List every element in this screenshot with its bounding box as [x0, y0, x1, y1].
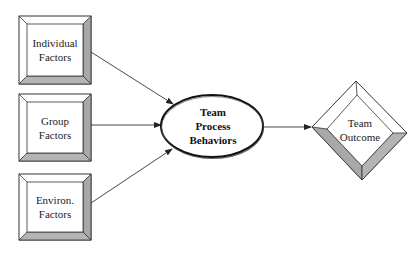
individual-factors-line1: Individual [32, 36, 77, 50]
group-factors-line2: Factors [39, 128, 71, 142]
team-outcome-label: Team Outcome [328, 112, 392, 148]
group-factors-label: Group Factors [27, 102, 83, 153]
environ-factors-line2: Factors [39, 207, 71, 221]
individual-factors-label: Individual Factors [27, 24, 83, 76]
team-process-line1: Team [200, 105, 226, 119]
team-process-line2: Process [195, 119, 230, 133]
arrow-environ-to-process [91, 149, 172, 203]
environ-factors-line1: Environ. [36, 193, 74, 207]
arrow-individual-to-process [91, 52, 173, 104]
diagram-canvas: Individual Factors Group Factors Environ… [0, 0, 420, 255]
team-process-label: Team Process Behaviors [167, 104, 259, 148]
team-outcome-line2: Outcome [340, 130, 380, 144]
environ-factors-label: Environ. Factors [27, 182, 83, 232]
team-outcome-line1: Team [348, 116, 372, 130]
team-process-line3: Behaviors [189, 133, 236, 147]
group-factors-line1: Group [41, 114, 69, 128]
individual-factors-line2: Factors [39, 50, 71, 64]
